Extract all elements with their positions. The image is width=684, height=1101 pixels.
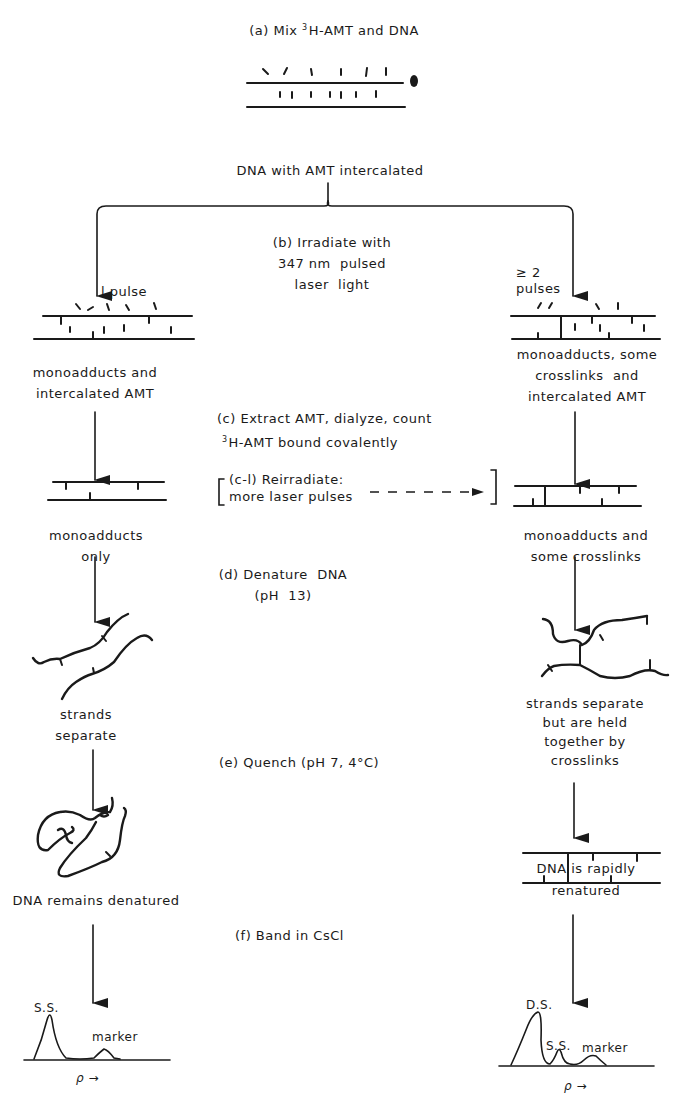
- left-peak-ss-label: S.S.: [34, 1002, 59, 1014]
- step-a-label: (a) Mix 3H-AMT and DNA: [249, 24, 419, 37]
- step-e-label: (e) Quench (pH 7, 4°C): [219, 756, 379, 769]
- step-f-label: (f) Band in CsCl: [235, 929, 344, 942]
- left-peak-marker-label: marker: [92, 1031, 138, 1043]
- step-c1-label: (c-l) Reirradiate: more laser pulses: [229, 471, 353, 505]
- left-after-irradiation-label: monoadducts and intercalated AMT: [33, 362, 158, 404]
- left-separated-strands: [33, 614, 152, 699]
- step-c-label: (c) Extract AMT, dialyze, count: [217, 412, 432, 425]
- step-b-label: (b) Irradiate with 347 nm pulsed laser l…: [273, 232, 391, 295]
- left-denatured-coil: [38, 798, 126, 876]
- left-density-axis-label: ρ →: [76, 1072, 99, 1084]
- right-pulse-label: ≥ 2 pulses: [516, 265, 561, 297]
- left-pulse-label: l pulse: [101, 285, 147, 298]
- right-density-axis-label: ρ →: [564, 1080, 587, 1092]
- amt-blob: [410, 75, 418, 87]
- left-after-extraction-label: monoadducts only: [49, 525, 143, 567]
- right-dna-after-multiple-pulses: [511, 303, 660, 339]
- right-after-extraction-label: monoadducts and some crosslinks: [524, 525, 649, 567]
- right-dna-monoadducts-crosslinks: [514, 486, 641, 506]
- right-cscl-band-profile: [499, 1012, 654, 1066]
- intercalated-dna-label: DNA with AMT intercalated: [236, 164, 423, 177]
- right-after-irradiation-label: monoadducts, some crosslinks and interca…: [517, 344, 658, 407]
- left-after-denature-label: strands separate: [55, 704, 116, 746]
- left-dna-monoadducts-only: [48, 482, 166, 500]
- left-dna-after-1-pulse: [34, 303, 194, 339]
- right-peak-ds-label: D.S.: [526, 999, 553, 1011]
- right-after-denature-label: strands separate but are held together b…: [526, 694, 644, 770]
- dna-duplex-initial: [247, 68, 418, 107]
- right-peak-marker-label: marker: [582, 1042, 628, 1054]
- amt-crosslink-protocol-diagram: (a) Mix 3H-AMT and DNA DNA with AMT inte…: [0, 0, 684, 1101]
- step-c-label-line2: 3H-AMT bound covalently: [222, 436, 398, 449]
- step-d-label: (d) Denature DNA (pH 13): [219, 564, 348, 606]
- right-peak-ss-label: S.S.: [546, 1040, 571, 1052]
- right-after-quench-label: DNA is rapidly renatured: [536, 858, 635, 902]
- left-after-quench-label: DNA remains denatured: [13, 894, 180, 907]
- right-crosslinked-strands: [542, 616, 668, 678]
